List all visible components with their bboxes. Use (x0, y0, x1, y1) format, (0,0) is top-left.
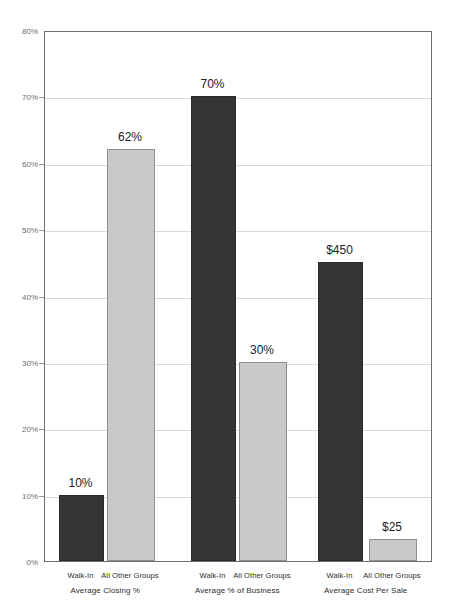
bar-light (107, 149, 155, 561)
gridline (45, 430, 431, 431)
x-axis-category-label: Walk-In (68, 571, 94, 580)
bar-value-label: $25 (382, 520, 402, 534)
y-axis-tick-label: 40% (0, 292, 38, 301)
bar-value-label: 70% (200, 77, 224, 91)
y-axis-tick-label: 60% (0, 159, 38, 168)
y-axis-tick-label: 20% (0, 425, 38, 434)
y-axis-tick-label: 50% (0, 226, 38, 235)
bar-dark (59, 495, 104, 561)
y-axis-tick-label: 10% (0, 491, 38, 500)
x-axis-category-label: All Other Groups (101, 571, 158, 580)
x-axis-group-label: Average Closing % (70, 586, 140, 595)
plot-area (44, 31, 432, 562)
gridline (45, 98, 431, 99)
x-axis-category-label: Walk-In (200, 571, 226, 580)
gridline (45, 298, 431, 299)
bar-chart: 0%10%20%30%40%50%60%70%80% 10%62%70%30%$… (0, 0, 455, 615)
bar-dark (318, 262, 363, 561)
x-axis-category-label: All Other Groups (363, 571, 420, 580)
y-axis-tick-label: 80% (0, 27, 38, 36)
y-axis-tick-label: 70% (0, 93, 38, 102)
x-axis-category-label: Walk-In (327, 571, 353, 580)
y-axis-tick-label: 0% (0, 558, 38, 567)
x-axis-category-label: All Other Groups (233, 571, 290, 580)
bar-value-label: 10% (68, 476, 92, 490)
bar-dark (191, 96, 236, 561)
bar-value-label: $450 (326, 243, 353, 257)
bar-value-label: 30% (250, 343, 274, 357)
gridline (45, 165, 431, 166)
gridline (45, 231, 431, 232)
bar-light (239, 362, 287, 561)
x-axis-group-label: Average Cost Per Sale (324, 586, 407, 595)
gridline (45, 364, 431, 365)
bar-light (369, 539, 417, 561)
y-axis-tick-label: 30% (0, 358, 38, 367)
bar-value-label: 62% (118, 130, 142, 144)
x-axis-group-label: Average % of Business (195, 586, 280, 595)
